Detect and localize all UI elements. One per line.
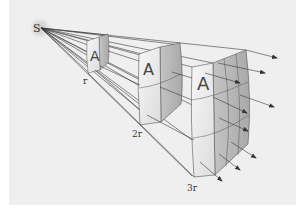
area-label-r: A <box>90 48 100 64</box>
area-label-2r: A <box>143 60 154 79</box>
distance-label-2r: 2r <box>132 129 143 139</box>
distance-label-3r: 3r <box>187 183 198 193</box>
distance-label-r: r <box>83 76 88 86</box>
source-label: S <box>33 22 41 35</box>
inverse-square-diagram: A A A S r 2r 3r <box>0 0 296 217</box>
area-label-3r: A <box>197 73 210 94</box>
diagram-canvas: A A A S r 2r 3r <box>0 0 296 217</box>
